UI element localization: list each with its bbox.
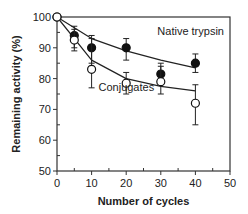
y-axis-label: Remaining activity (%) (10, 35, 22, 153)
filled-circle-marker (191, 59, 199, 67)
open-circle-marker (88, 65, 96, 73)
x-tick-label: 50 (224, 177, 236, 189)
x-tick-label: 10 (85, 177, 97, 189)
y-tick-label: 70 (39, 103, 51, 115)
series-annotation: Conjugates (99, 81, 155, 93)
x-tick-label: 20 (120, 177, 132, 189)
series-annotation: Native trypsin (157, 25, 224, 37)
y-tick-label: 50 (39, 165, 51, 177)
open-circle-marker (53, 13, 61, 21)
x-tick-label: 30 (155, 177, 167, 189)
y-tick-label: 90 (39, 42, 51, 54)
axis-labels: 506070809010001020304050Number of cycles… (10, 11, 236, 207)
y-tick-label: 80 (39, 73, 51, 85)
plot-frame (57, 17, 230, 171)
x-tick-label: 40 (189, 177, 201, 189)
open-circle-marker (70, 36, 78, 44)
plot-axes (53, 17, 230, 175)
y-tick-label: 100 (33, 11, 51, 23)
chart: 506070809010001020304050Number of cycles… (0, 0, 248, 214)
filled-circle-marker (122, 44, 130, 52)
open-circle-marker (157, 78, 165, 86)
open-circle-marker (191, 99, 199, 107)
x-tick-label: 0 (54, 177, 60, 189)
y-tick-label: 60 (39, 134, 51, 146)
x-axis-label: Number of cycles (98, 195, 190, 207)
series-native-trypsin (53, 13, 199, 82)
